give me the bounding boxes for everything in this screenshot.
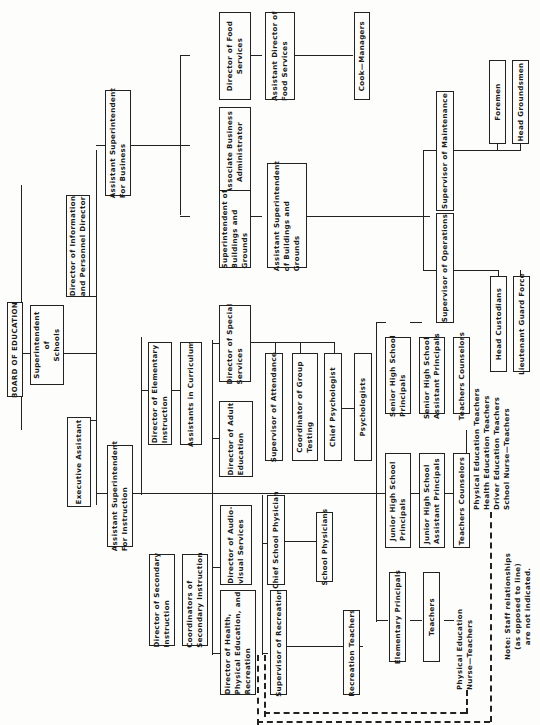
asst-superintendent-business: Assistant Superintendent For Business bbox=[105, 90, 131, 196]
elementary-teachers: Teachers bbox=[423, 572, 440, 662]
connector bbox=[250, 342, 335, 343]
superintendent: Superintendent of Schools bbox=[30, 305, 64, 385]
connector bbox=[212, 567, 220, 568]
head-groundsmen: Head Groundsmen bbox=[512, 60, 529, 144]
connector bbox=[250, 216, 262, 217]
dashed-connector bbox=[490, 512, 492, 722]
connector bbox=[212, 340, 213, 495]
dashed-connector bbox=[466, 690, 468, 714]
school-physicians: School Physicians bbox=[316, 512, 333, 582]
footnote: Note: Staff relationships (as opposed to… bbox=[503, 553, 533, 660]
director-secondary-instruction: Director of Secondary Instruction bbox=[149, 554, 175, 646]
connector bbox=[141, 337, 142, 495]
senior-teachers-counselors: Teachers Counselors bbox=[453, 337, 470, 414]
director-adult-education: Director of Adult Education bbox=[219, 401, 253, 477]
connector bbox=[262, 495, 263, 655]
associate-business-admin: Associate Business Administrator bbox=[219, 107, 251, 197]
board-of-education: BOARD OF EDUCATION bbox=[7, 302, 23, 397]
supervisor-attendance: Supervisor of Attendance bbox=[265, 353, 283, 461]
connector bbox=[423, 270, 437, 271]
connector bbox=[423, 150, 424, 270]
connector bbox=[453, 150, 497, 151]
connector bbox=[250, 55, 262, 56]
coordinators-secondary: Coordinators of Secondary Instruction bbox=[182, 554, 208, 646]
secondary-teacher-list: Physical Education Teachers Health Educa… bbox=[472, 388, 512, 510]
dashed-connector bbox=[257, 721, 490, 723]
connector bbox=[130, 145, 180, 146]
connector bbox=[305, 216, 430, 217]
senior-high-asst-principals: Senior High School Assistant Principals bbox=[419, 337, 445, 414]
senior-high-principals: Senior High School Principals bbox=[385, 337, 411, 414]
connector bbox=[293, 55, 353, 56]
head-custodians: Head Custodians bbox=[490, 276, 507, 372]
connector bbox=[262, 653, 268, 654]
dashed-connector bbox=[264, 655, 266, 717]
connector bbox=[376, 620, 388, 621]
connector bbox=[180, 55, 181, 215]
cook-managers: Cook—Managers bbox=[354, 12, 370, 100]
director-health-pe-recreation: Director of Health, Physical Education, … bbox=[220, 590, 256, 695]
connector bbox=[96, 150, 97, 505]
connector bbox=[90, 420, 97, 421]
asst-superintendent-buildings: Assistant Superintendent of Buildings an… bbox=[267, 163, 307, 268]
supervisor-recreation: Supervisor of Recreation bbox=[270, 590, 287, 695]
director-special-services: Director of Special Services bbox=[219, 305, 251, 382]
connector bbox=[410, 322, 422, 323]
elementary-principals: Elementary Principals bbox=[389, 572, 406, 662]
psychologists: Psychologists bbox=[354, 353, 372, 461]
connector bbox=[376, 322, 377, 622]
chief-psychologist: Chief Psychologist bbox=[324, 353, 342, 461]
coordinator-group-testing: Coordinator of Group Testing bbox=[292, 353, 318, 461]
elementary-teacher-list: Physical Education Nurse—Teachers bbox=[455, 609, 475, 690]
superintendent-buildings: Superintendent of Buildings and Grounds bbox=[219, 190, 251, 268]
connector bbox=[410, 620, 422, 621]
director-elementary-instruction: Director of Elementary Instruction bbox=[148, 342, 172, 445]
connector bbox=[497, 150, 521, 151]
asst-superintendent-instruction: Assistant Superintendent For Instruction bbox=[107, 445, 133, 547]
recreation-teachers: Recreation Teachers bbox=[343, 610, 360, 695]
connector bbox=[180, 216, 190, 217]
connector bbox=[212, 495, 213, 655]
lieutenant-guard-force: Lieutenant Guard Force bbox=[513, 276, 530, 372]
chief-school-physician: Chief School Physician bbox=[267, 495, 285, 585]
dashed-connector bbox=[264, 712, 466, 714]
asst-director-food-services: Assistant Director of Food Services bbox=[265, 12, 295, 100]
director-information: Director of Information and Personnel Di… bbox=[66, 195, 90, 297]
connector bbox=[340, 408, 354, 409]
connector bbox=[376, 322, 386, 323]
connector bbox=[180, 55, 190, 56]
connector bbox=[444, 620, 454, 621]
junior-high-principals: Junior High School Principals bbox=[385, 453, 411, 548]
connector bbox=[453, 270, 499, 271]
assistants-curriculum: Assistants in Curriculum bbox=[180, 342, 202, 445]
connector bbox=[180, 145, 190, 146]
connector bbox=[423, 150, 437, 151]
dashed-connector bbox=[257, 655, 259, 725]
junior-high-asst-principals: Junior High School Assistant Principals bbox=[419, 453, 445, 548]
executive-assistant: Executive Assistant bbox=[67, 417, 91, 507]
connector bbox=[285, 541, 317, 542]
junior-teachers-counselors: Teachers Counselors bbox=[453, 453, 470, 548]
director-food-services: Director of Food Services bbox=[219, 12, 251, 100]
supervisor-maintenance: Supervisor of Maintenance bbox=[436, 91, 454, 211]
supervisor-operations: Supervisor of Operations bbox=[436, 213, 454, 323]
foremen: Foremen bbox=[489, 60, 506, 144]
director-audio-visual: Director of Audio- visual Services bbox=[220, 505, 252, 585]
